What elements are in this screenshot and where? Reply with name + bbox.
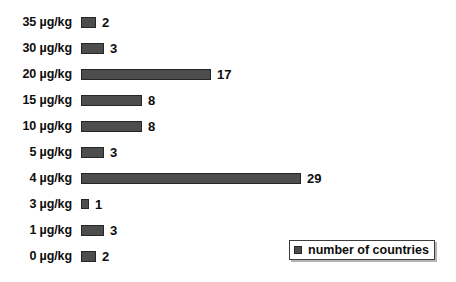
category-label: 15 µg/kg	[0, 94, 72, 107]
legend-label: number of countries	[308, 244, 429, 257]
bar-track: 8	[81, 113, 456, 139]
chart-legend[interactable]: number of countries	[289, 240, 435, 260]
bar-segment[interactable]	[81, 121, 142, 132]
bar-row: 35 µg/kg 2	[0, 9, 456, 35]
category-label: 20 µg/kg	[0, 68, 72, 81]
bar-track: 29	[81, 165, 456, 191]
bar-row: 15 µg/kg 8	[0, 87, 456, 113]
bar-value-label: 3	[110, 146, 117, 159]
bar-row: 4 µg/kg 29	[0, 165, 456, 191]
bar-value-label: 8	[148, 120, 155, 133]
bar-segment[interactable]	[81, 95, 142, 106]
bar-segment[interactable]	[81, 199, 89, 209]
bar-row: 30 µg/kg 3	[0, 35, 456, 61]
bar-track: 17	[81, 61, 456, 87]
bar-value-label: 2	[102, 250, 109, 263]
category-label: 35 µg/kg	[0, 16, 72, 29]
category-label: 10 µg/kg	[0, 120, 72, 133]
bar-segment[interactable]	[81, 43, 104, 54]
bar-segment[interactable]	[81, 17, 96, 28]
bar-segment[interactable]	[81, 251, 96, 262]
bar-track: 3	[81, 139, 456, 165]
bar-value-label: 2	[102, 16, 109, 29]
bar-value-label: 3	[110, 42, 117, 55]
bar-segment[interactable]	[81, 69, 211, 80]
bar-value-label: 17	[217, 68, 231, 81]
category-label: 4 µg/kg	[0, 172, 72, 185]
bar-segment[interactable]	[81, 147, 104, 158]
bar-row: 10 µg/kg 8	[0, 113, 456, 139]
chart-plot-area: 35 µg/kg 2 30 µg/kg 3 20 µg/kg 17 15 µg/…	[0, 9, 456, 269]
category-label: 5 µg/kg	[0, 146, 72, 159]
bar-row: 5 µg/kg 3	[0, 139, 456, 165]
bar-track: 2	[81, 9, 456, 35]
bar-chart: 35 µg/kg 2 30 µg/kg 3 20 µg/kg 17 15 µg/…	[0, 0, 456, 282]
category-label: 30 µg/kg	[0, 42, 72, 55]
category-label: 0 µg/kg	[0, 250, 72, 263]
category-label: 3 µg/kg	[0, 198, 72, 211]
bar-track: 3	[81, 35, 456, 61]
legend-swatch-icon	[294, 246, 302, 254]
bar-value-label: 1	[95, 198, 102, 211]
bar-value-label: 3	[110, 224, 117, 237]
bar-value-label: 29	[307, 172, 321, 185]
bar-track: 1	[81, 191, 456, 217]
bar-track: 8	[81, 87, 456, 113]
bar-segment[interactable]	[81, 225, 104, 236]
category-label: 1 µg/kg	[0, 224, 72, 237]
bar-segment[interactable]	[81, 173, 301, 184]
bar-row: 20 µg/kg 17	[0, 61, 456, 87]
bar-value-label: 8	[148, 94, 155, 107]
bar-row: 3 µg/kg 1	[0, 191, 456, 217]
